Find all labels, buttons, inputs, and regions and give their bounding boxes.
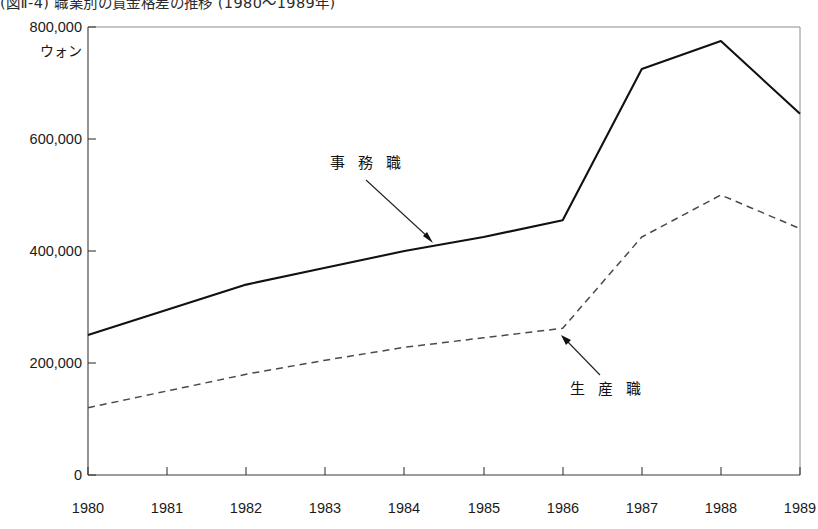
y-axis-label-800000: 800,000 — [30, 19, 82, 35]
series-line-clerical — [88, 41, 800, 335]
x-axis-label-1987: 1987 — [626, 500, 658, 516]
annotation-label-clerical: 事 務 職 — [330, 154, 405, 172]
y-axis-label-200000: 200,000 — [30, 355, 82, 371]
y-axis-unit: ウォン — [40, 43, 82, 59]
line-chart: 800,000 ウォン 600,000 400,000 200,000 0 19… — [0, 0, 818, 529]
y-axis-label-400000: 400,000 — [30, 243, 82, 259]
y-axis-label-600000: 600,000 — [30, 131, 82, 147]
annotation-clerical: 事 務 職 — [330, 154, 433, 243]
figure-container: (図Ⅱ-4) 職業別の賃金格差の推移 (1980〜1989年) 800,000 … — [0, 0, 818, 529]
annotation-arrow-clerical — [366, 180, 429, 238]
x-axis-label-1986: 1986 — [547, 500, 579, 516]
y-axis-label-0: 0 — [74, 467, 82, 483]
x-axis-label-1981: 1981 — [151, 500, 183, 516]
x-axis-label-1985: 1985 — [468, 500, 500, 516]
x-axis-label-1980: 1980 — [72, 500, 104, 516]
annotation-production: 生 産 職 — [561, 335, 645, 398]
x-axis-label-1982: 1982 — [230, 500, 262, 516]
x-axis-label-1983: 1983 — [309, 500, 341, 516]
x-axis-label-1984: 1984 — [388, 500, 420, 516]
annotation-label-production: 生 産 職 — [570, 380, 645, 398]
plot-frame — [88, 27, 800, 475]
x-axis-label-1988: 1988 — [705, 500, 737, 516]
x-axis-label-1989: 1989 — [784, 500, 816, 516]
x-tick-marks — [88, 467, 800, 475]
annotation-arrow-production — [566, 340, 600, 375]
